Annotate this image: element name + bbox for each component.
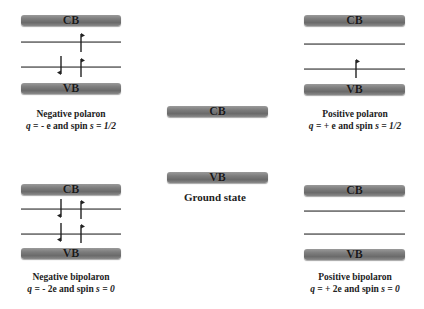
charge-spin-formula: q = + e and spin s = 1/2 xyxy=(293,120,417,132)
cb-label: CB xyxy=(63,15,80,26)
conduction-band: CB xyxy=(167,106,268,117)
spin-up-arrow-icon xyxy=(78,223,86,243)
spin-value: = 0 xyxy=(385,284,400,294)
charge-spin-formula: q = + 2e and spin s = 0 xyxy=(293,283,417,295)
spin-down-arrow-icon xyxy=(56,199,64,219)
conduction-band: CB xyxy=(304,15,405,26)
cb-label: CB xyxy=(346,15,363,26)
vb-label: VB xyxy=(63,248,80,259)
valence-band: VB xyxy=(167,172,268,183)
state-title: Negative polaron xyxy=(10,108,132,120)
valence-band: VB xyxy=(21,248,121,259)
cb-label: CB xyxy=(63,184,80,195)
state-title: Positive polaron xyxy=(293,108,417,120)
ground-state-label: Ground state xyxy=(184,191,246,203)
charge-text: = - 2e and spin xyxy=(32,284,96,294)
upper-gap-level xyxy=(304,43,405,45)
charge-text: = - e and spin xyxy=(31,121,90,131)
vb-label: VB xyxy=(346,84,363,95)
charge-spin-formula: q = - 2e and spin s = 0 xyxy=(8,283,134,295)
valence-band: VB xyxy=(304,84,405,95)
vb-label: VB xyxy=(63,83,80,94)
caption-negative-polaron: Negative polaron q = - e and spin s = 1/… xyxy=(10,108,132,132)
lower-gap-level xyxy=(21,66,121,68)
upper-gap-level xyxy=(304,210,405,212)
state-title: Positive bipolaron xyxy=(293,271,417,283)
conduction-band: CB xyxy=(21,184,121,195)
spin-value: = 0 xyxy=(100,284,115,294)
lower-gap-level xyxy=(21,233,121,235)
spin-value: = 1/2 xyxy=(379,121,401,131)
lower-gap-level xyxy=(304,233,405,235)
charge-text: = + 2e and spin xyxy=(315,284,381,294)
upper-gap-level xyxy=(21,208,121,210)
spin-down-arrow-icon xyxy=(56,223,64,243)
spin-value: = 1/2 xyxy=(94,121,116,131)
conduction-band: CB xyxy=(304,185,405,196)
caption-negative-bipolaron: Negative bipolaron q = - 2e and spin s =… xyxy=(8,271,134,295)
spin-up-arrow-icon xyxy=(353,58,361,78)
spin-up-arrow-icon xyxy=(78,57,86,77)
cb-label: CB xyxy=(209,106,226,117)
caption-positive-bipolaron: Positive bipolaron q = + 2e and spin s =… xyxy=(293,271,417,295)
upper-gap-level xyxy=(21,41,121,43)
conduction-band: CB xyxy=(21,15,121,26)
spin-up-arrow-icon xyxy=(78,199,86,219)
cb-label: CB xyxy=(346,185,363,196)
spin-down-arrow-icon xyxy=(56,56,64,76)
spin-up-arrow-icon xyxy=(78,32,86,52)
vb-label: VB xyxy=(346,249,363,260)
charge-text: = + e and spin xyxy=(314,121,376,131)
caption-positive-polaron: Positive polaron q = + e and spin s = 1/… xyxy=(293,108,417,132)
state-title: Negative bipolaron xyxy=(8,271,134,283)
valence-band: VB xyxy=(304,249,405,260)
valence-band: VB xyxy=(21,83,121,94)
charge-spin-formula: q = - e and spin s = 1/2 xyxy=(10,120,132,132)
vb-label: VB xyxy=(209,172,226,183)
